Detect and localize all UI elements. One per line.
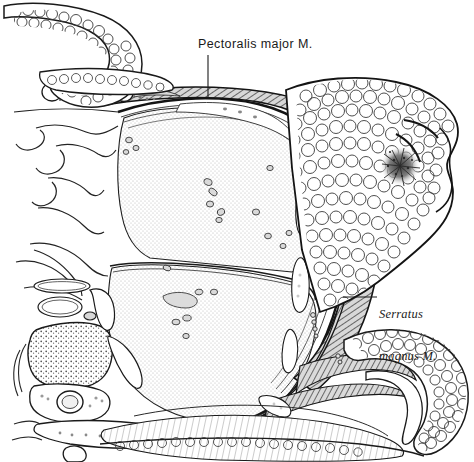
spinous-process xyxy=(63,446,86,462)
label-serratus-magnus: Serratus magnus M. xyxy=(379,279,436,377)
anatomy-figure: Pectoralis major M. Serratus magnus M. xyxy=(0,0,474,462)
label-pectoralis-major: Pectoralis major M. xyxy=(198,37,313,51)
vertebral-body xyxy=(28,323,113,389)
label-serratus-line2: magnus M. xyxy=(379,349,436,363)
label-serratus-line1: Serratus xyxy=(379,307,436,321)
anatomy-plate xyxy=(0,0,474,462)
